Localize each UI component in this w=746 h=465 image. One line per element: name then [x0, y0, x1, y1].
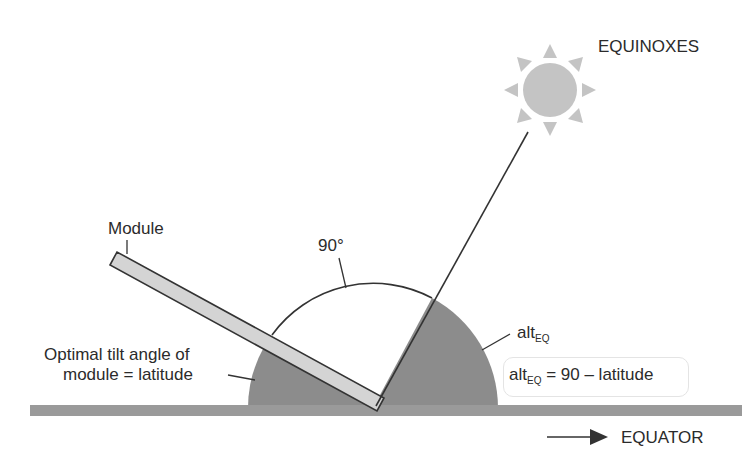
tilt-leader — [228, 375, 255, 380]
ground-surface — [30, 405, 742, 416]
tilt-label-line1: Optimal tilt angle of — [44, 345, 190, 365]
right-angle-arc — [272, 283, 432, 335]
angle-90-label: 90° — [318, 236, 344, 256]
formula-label: altEQ = 90 – latitude — [509, 365, 653, 386]
alt-text: alt — [517, 323, 535, 342]
alt-eq-label: altEQ — [517, 323, 549, 344]
tilt-label-line2: module = latitude — [63, 365, 193, 385]
equator-label: EQUATOR — [621, 428, 704, 448]
module-label: Module — [108, 219, 164, 239]
sun-icon — [504, 44, 596, 136]
alt-subscript: EQ — [535, 333, 549, 344]
alt-leader — [482, 334, 510, 350]
angle-90-leader — [339, 258, 346, 288]
equinoxes-label: EQUINOXES — [598, 37, 699, 57]
formula-rest: = 90 – latitude — [541, 365, 653, 384]
altitude-sector — [373, 298, 498, 408]
equator-arrow-head — [590, 429, 608, 445]
formula-alt: alt — [509, 365, 527, 384]
formula-subscript: EQ — [527, 375, 541, 386]
